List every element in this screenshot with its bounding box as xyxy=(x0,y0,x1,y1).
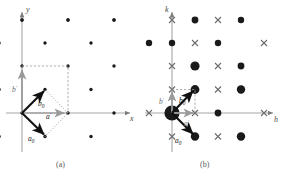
panel-b-h-axis-label: h xyxy=(274,115,278,124)
panel-b-label-b-zero: b0 xyxy=(179,96,186,106)
panel-a-y-axis-label: y xyxy=(25,5,30,14)
panel-a-axes: y x xyxy=(6,5,134,152)
panel-a-lattice-points xyxy=(0,18,116,138)
panel-b-k-axis-label: k xyxy=(165,5,169,14)
panel-a-diagram: y x xyxy=(0,0,143,160)
figure-two-panel-lattice: y x xyxy=(0,0,286,188)
panel-b-label-b-prime: b′ xyxy=(159,97,165,106)
panel-a-label-a-prime: a′ xyxy=(46,112,52,121)
panel-a-x-axis-label: x xyxy=(129,114,134,123)
panel-a-label-b-prime: b′ xyxy=(12,85,18,94)
panel-b-label-a-prime: a′ xyxy=(184,119,190,128)
panel-b-diagram: k h xyxy=(143,0,286,160)
panel-a-label-b-zero: b0 xyxy=(38,99,45,109)
panel-a-caption: (a) xyxy=(56,160,65,169)
panel-b-caption: (b) xyxy=(200,160,209,169)
panel-b-axes: k h xyxy=(145,5,278,152)
panel-a-label-a-zero: a0 xyxy=(28,134,35,144)
panel-b-lattice-points xyxy=(143,16,267,141)
panel-b-vector-labels: b′ b0 a′ a0 xyxy=(159,96,190,146)
panel-b-label-a-zero: a0 xyxy=(175,136,182,146)
